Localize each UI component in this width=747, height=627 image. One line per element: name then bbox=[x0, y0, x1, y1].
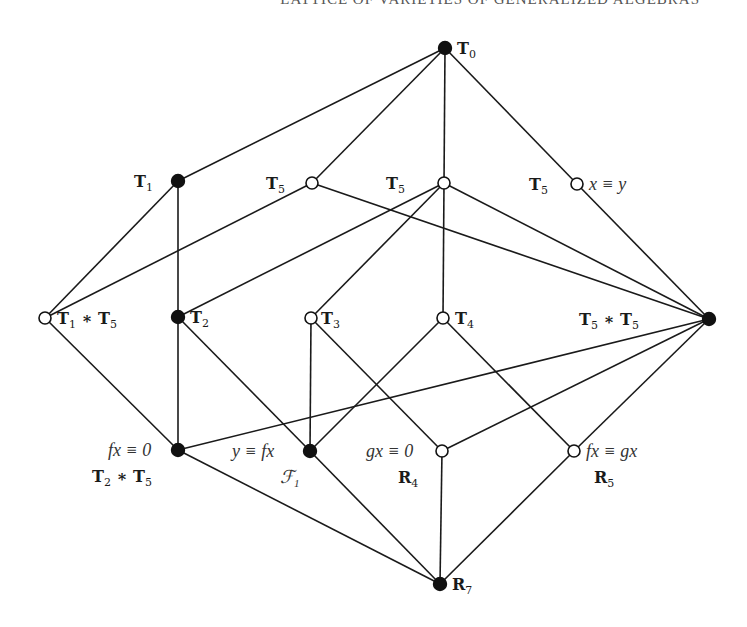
node-T5b bbox=[438, 177, 450, 189]
edge-T4-R5 bbox=[443, 318, 574, 451]
label-F1-1: ℱ1 bbox=[280, 467, 300, 489]
node-R4 bbox=[436, 445, 448, 457]
label-R5-0: fx ≡ gx bbox=[586, 441, 637, 461]
label-T3-0: T3 bbox=[321, 309, 340, 331]
label-R5-1: R5 bbox=[594, 468, 614, 490]
edge-T0-T5a bbox=[312, 48, 445, 183]
edge-F1-R7 bbox=[310, 451, 440, 584]
node-R5 bbox=[568, 445, 580, 457]
label-T2-0: T2 bbox=[190, 308, 209, 330]
edge-T5b-T3 bbox=[311, 183, 444, 318]
label-F1-0: y ≡ fx bbox=[230, 441, 274, 461]
labels-group: T0T1T5T5T5x ≡ yT1 ∗ T5T2T3T4T5 ∗ T5fx ≡ … bbox=[57, 39, 639, 597]
node-T2T5 bbox=[172, 444, 185, 457]
node-R7 bbox=[434, 578, 447, 591]
label-T5c-1: x ≡ y bbox=[588, 174, 626, 194]
node-T3 bbox=[305, 312, 317, 324]
edge-T5c-T5T5 bbox=[577, 184, 709, 319]
edge-T1-T1T5 bbox=[45, 181, 178, 318]
node-F1 bbox=[304, 445, 317, 458]
edge-R4-R7 bbox=[440, 451, 442, 584]
label-R4-1: R4 bbox=[398, 468, 418, 490]
label-T4-0: T4 bbox=[455, 309, 474, 331]
label-T5a-0: T5 bbox=[266, 174, 285, 196]
label-T2T5-1: T2 ∗ T5 bbox=[92, 467, 152, 489]
node-T4 bbox=[437, 312, 449, 324]
edge-T5T5-T2T5 bbox=[178, 319, 709, 450]
label-T5b-0: T5 bbox=[386, 174, 405, 196]
label-T5T5-0: T5 ∗ T5 bbox=[579, 310, 639, 332]
edge-T0-T1 bbox=[178, 48, 445, 181]
node-T2 bbox=[172, 311, 185, 324]
edge-T5b-T5T5 bbox=[444, 183, 709, 319]
label-T1-0: T1 bbox=[134, 172, 153, 194]
node-T5c bbox=[571, 178, 583, 190]
label-T1T5-0: T1 ∗ T5 bbox=[57, 309, 117, 331]
edge-T5T5-R5 bbox=[574, 319, 709, 451]
label-T0-0: T0 bbox=[457, 39, 476, 61]
edge-R5-R7 bbox=[440, 451, 574, 584]
edge-T3-F1 bbox=[310, 318, 311, 451]
node-T1 bbox=[172, 175, 185, 188]
edge-T5a-T5T5 bbox=[312, 183, 709, 319]
edge-T5T5-R4 bbox=[442, 319, 709, 451]
edge-T5b-T4 bbox=[443, 183, 444, 318]
node-T0 bbox=[439, 42, 452, 55]
edge-T1T5-T2T5 bbox=[45, 318, 178, 450]
label-T2T5-0: fx ≡ 0 bbox=[108, 440, 151, 460]
label-T5c-0: T5 bbox=[529, 175, 548, 197]
node-T1T5 bbox=[39, 312, 51, 324]
edge-T0-T5b bbox=[444, 48, 445, 183]
edge-T2-F1 bbox=[178, 317, 310, 451]
edge-T5b-T2 bbox=[178, 183, 444, 317]
label-R4-0: gx ≡ 0 bbox=[366, 441, 413, 461]
lattice-diagram: T0T1T5T5T5x ≡ yT1 ∗ T5T2T3T4T5 ∗ T5fx ≡ … bbox=[0, 0, 747, 627]
node-T5a bbox=[306, 177, 318, 189]
label-R7-0: R7 bbox=[452, 575, 472, 597]
edge-T0-T5c bbox=[445, 48, 577, 184]
node-T5T5 bbox=[703, 313, 716, 326]
